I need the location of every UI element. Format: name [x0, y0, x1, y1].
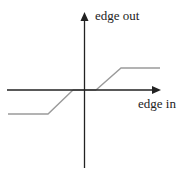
x-axis-arrow-icon: [152, 86, 161, 94]
positive-saturation-segment: [96, 68, 160, 90]
y-axis-label: edge out: [95, 9, 139, 22]
y-axis-arrow-icon: [81, 12, 89, 21]
x-axis-label: edge in: [138, 97, 176, 110]
negative-saturation-segment: [8, 90, 73, 114]
transfer-diagram: [0, 0, 187, 175]
